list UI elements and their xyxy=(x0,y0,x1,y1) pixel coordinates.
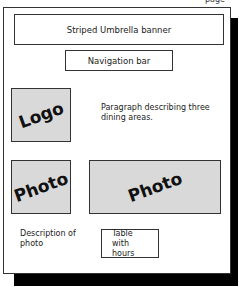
photo-left-box: Photo xyxy=(11,160,71,214)
navigation-box: Navigation bar xyxy=(65,50,173,71)
logo-label: Logo xyxy=(16,98,66,133)
photo-right-label: Photo xyxy=(125,168,185,206)
navigation-label: Navigation bar xyxy=(88,56,151,66)
paragraph-note: Paragraph describing three dining areas. xyxy=(101,103,211,123)
logo-box: Logo xyxy=(11,88,71,142)
photo-left-label: Photo xyxy=(11,168,71,206)
cropped-caption: page xyxy=(205,0,225,4)
photo-description: Description of photo xyxy=(20,229,80,249)
table-label: Table with hours xyxy=(112,229,152,259)
banner-box: Striped Umbrella banner xyxy=(14,14,224,45)
table-box: Table with hours xyxy=(101,229,159,258)
banner-label: Striped Umbrella banner xyxy=(67,25,171,35)
photo-right-box: Photo xyxy=(89,160,221,214)
